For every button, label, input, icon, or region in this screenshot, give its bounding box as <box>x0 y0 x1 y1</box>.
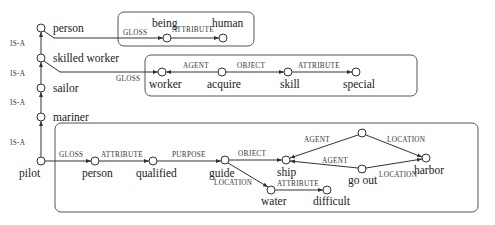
label-location-goout-harbor: LOCATION <box>379 171 418 179</box>
node-skilled-worker <box>37 54 45 62</box>
label-agent-unnamed-ship: AGENT <box>304 136 330 144</box>
word-difficult: difficult <box>313 195 351 207</box>
label-object-acquire-skill: OBJECT <box>237 62 265 70</box>
node-harbor <box>422 154 430 162</box>
node-difficult <box>323 186 331 194</box>
node-mariner <box>37 113 45 121</box>
semantic-network-diagram: IS-A IS-A IS-A IS-A GLOSS GLOSS GLOSS AT… <box>0 0 495 225</box>
word-ship: ship <box>277 166 296 179</box>
word-being: being <box>152 17 178 30</box>
word-person-top: person <box>53 22 84 35</box>
node-worker <box>158 68 166 76</box>
word-worker: worker <box>149 78 182 90</box>
node-water <box>267 186 275 194</box>
label-purpose-qualified-guide: PURPOSE <box>172 151 206 159</box>
gloss-label-person: GLOSS <box>123 29 147 37</box>
word-harbor: harbor <box>414 164 444 176</box>
node-guide <box>221 156 229 164</box>
node-skill <box>284 68 292 76</box>
word-sailor: sailor <box>53 82 79 94</box>
word-skill: skill <box>280 78 300 90</box>
word-water: water <box>261 195 287 207</box>
word-guide: guide <box>209 167 235 180</box>
node-acquire <box>218 68 226 76</box>
label-object-guide-ship: OBJECT <box>238 150 266 158</box>
node-ship <box>282 156 290 164</box>
label-attribute-person-qualified: ATTRIBUTE <box>101 151 143 159</box>
word-special: special <box>343 78 375 91</box>
label-location-unnamed-harbor: LOCATION <box>387 136 426 144</box>
word-go-out: go out <box>348 174 378 187</box>
node-special <box>352 68 360 76</box>
word-mariner: mariner <box>53 111 89 123</box>
word-person-gloss: person <box>82 167 113 180</box>
label-agent-acquire-worker: AGENT <box>183 62 209 70</box>
isa-label-3: IS-A <box>10 99 26 107</box>
label-attribute-water-difficult: ATTRIBUTE <box>277 180 319 188</box>
word-pilot: pilot <box>19 167 41 180</box>
label-attribute-skill-special: ATTRIBUTE <box>298 62 340 70</box>
gloss-label-pilot: GLOSS <box>59 151 83 159</box>
word-acquire: acquire <box>207 78 241 91</box>
node-person-gloss <box>91 157 99 165</box>
isa-label-1: IS-A <box>10 40 26 48</box>
gloss-label-skilled-worker: GLOSS <box>116 75 140 83</box>
node-sailor <box>37 84 45 92</box>
node-qualified <box>149 157 157 165</box>
node-human <box>219 34 227 42</box>
node-go-out <box>358 165 366 173</box>
label-attribute-being-human: ATTRIBUTE <box>172 26 214 34</box>
word-human: human <box>212 17 244 29</box>
diagram-svg: IS-A IS-A IS-A IS-A GLOSS GLOSS GLOSS AT… <box>0 0 495 225</box>
node-being <box>163 34 171 42</box>
isa-label-4: IS-A <box>10 139 26 147</box>
node-unnamed <box>358 129 366 137</box>
node-person-top <box>37 24 45 32</box>
word-skilled-worker: skilled worker <box>53 52 119 64</box>
label-agent-goout-ship: AGENT <box>322 157 348 165</box>
isa-label-2: IS-A <box>10 70 26 78</box>
node-pilot <box>37 157 45 165</box>
label-location-guide-water: LOCATION <box>214 179 253 187</box>
word-qualified: qualified <box>136 167 177 180</box>
